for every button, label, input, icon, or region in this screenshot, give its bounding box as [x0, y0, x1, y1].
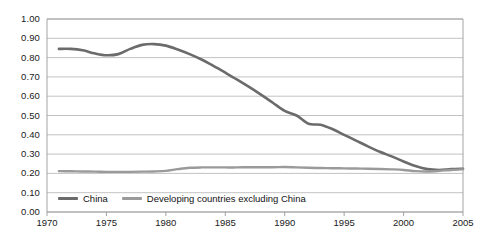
x-axis-ticks	[47, 212, 463, 216]
y-tick-label: 1.00	[8, 14, 40, 24]
legend-label-china: China	[83, 193, 108, 204]
series-lines	[59, 44, 463, 172]
x-tick-label: 1985	[205, 218, 245, 228]
series-line-china	[59, 44, 463, 170]
legend-label-developing-countries: Developing countries excluding China	[147, 193, 306, 204]
y-tick-label: 0.20	[8, 168, 40, 178]
y-tick-label: 0.60	[8, 91, 40, 101]
x-tick-label: 1990	[265, 218, 305, 228]
y-tick-label: 0.00	[8, 207, 40, 217]
legend-swatch-developing-countries	[122, 197, 142, 200]
x-tick-label: 2000	[384, 218, 424, 228]
x-tick-label: 1980	[146, 218, 186, 228]
legend-entry-china: China	[58, 193, 108, 204]
y-tick-label: 0.30	[8, 149, 40, 159]
y-tick-label: 0.70	[8, 72, 40, 82]
chart-canvas	[0, 0, 487, 243]
gridlines	[47, 19, 463, 212]
legend-entry-developing-countries: Developing countries excluding China	[122, 193, 306, 204]
x-tick-label: 1970	[27, 218, 67, 228]
y-tick-label: 0.10	[8, 188, 40, 198]
series-line-developing-countries	[59, 167, 463, 172]
x-tick-label: 2005	[443, 218, 483, 228]
y-tick-label: 0.40	[8, 130, 40, 140]
legend-swatch-china	[58, 197, 78, 200]
y-tick-label: 0.90	[8, 33, 40, 43]
x-tick-label: 1995	[324, 218, 364, 228]
y-tick-label: 0.80	[8, 53, 40, 63]
chart-legend: China Developing countries excluding Chi…	[58, 190, 315, 206]
line-chart: 0.000.100.200.300.400.500.600.700.800.90…	[0, 0, 487, 243]
y-tick-label: 0.50	[8, 111, 40, 121]
x-tick-label: 1975	[86, 218, 126, 228]
